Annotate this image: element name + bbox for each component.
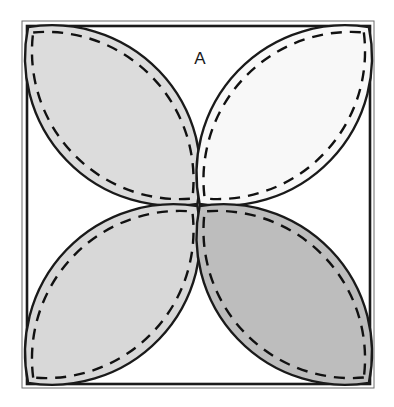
figure-canvas: A bbox=[0, 0, 394, 407]
figure-container: A bbox=[0, 0, 394, 407]
figure-label: A bbox=[194, 49, 206, 68]
